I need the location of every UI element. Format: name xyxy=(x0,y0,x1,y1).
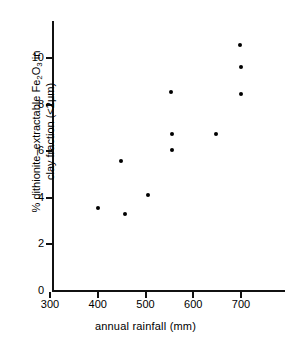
data-point xyxy=(96,206,100,210)
y-axis-title-line1-mid: O xyxy=(30,67,42,76)
x-axis-title: annual rainfall (mm) xyxy=(0,320,291,332)
data-point xyxy=(170,132,174,136)
y-axis-title-line2: clay fraction (<2μm) xyxy=(44,1,57,263)
data-point xyxy=(169,90,173,94)
data-point xyxy=(123,212,127,216)
y-axis-title-sub-2: 2 xyxy=(35,75,44,79)
data-point xyxy=(214,132,218,136)
scatter-plot-figure: 0246810300400500600700 annual rainfall (… xyxy=(0,0,291,345)
y-axis-title-line1-pre: % dithionite–extractable Fe xyxy=(30,80,42,213)
data-point xyxy=(239,65,243,69)
data-point xyxy=(170,148,174,152)
y-axis-title: % dithionite–extractable Fe2O3 in clay f… xyxy=(30,1,57,263)
y-axis-title-line1-post: in xyxy=(30,51,42,63)
data-point xyxy=(238,43,242,47)
y-axis-title-sub-3: 3 xyxy=(35,62,44,66)
data-point xyxy=(119,159,123,163)
data-point xyxy=(146,193,150,197)
y-axis-title-line1: % dithionite–extractable Fe2O3 in xyxy=(30,1,44,263)
data-point xyxy=(239,92,243,96)
